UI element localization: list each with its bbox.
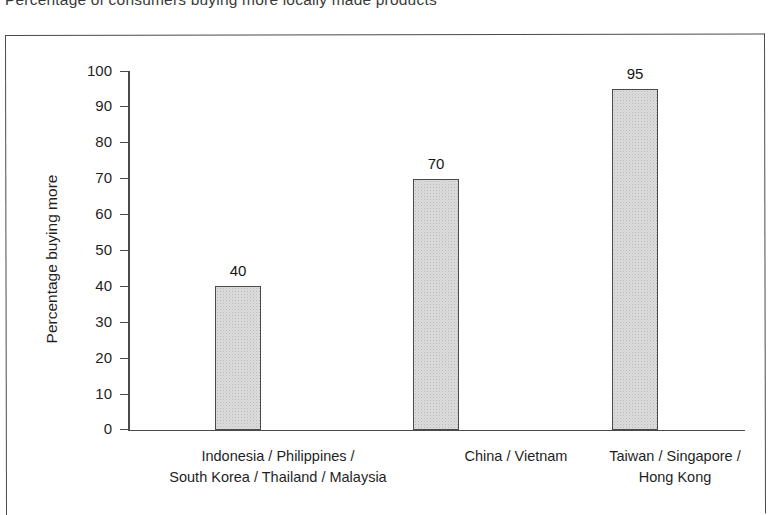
y-tick-40	[120, 286, 129, 287]
y-tick-label-30: 30	[72, 314, 112, 329]
y-axis-title: Percentage buying more	[43, 149, 61, 369]
y-tick-100	[120, 71, 129, 72]
y-tick-label-100: 100	[72, 63, 112, 78]
y-tick-label-50: 50	[72, 242, 112, 257]
y-tick-80	[120, 142, 129, 143]
bar-indonesia-philippines-south-korea-thailand-malaysia[interactable]	[215, 286, 261, 430]
category-label-1-line-2: South Korea / Thailand / Malaysia	[118, 467, 438, 488]
bar-value-label-3: 95	[595, 66, 675, 81]
y-tick-label-60: 60	[72, 206, 112, 221]
y-tick-60	[120, 214, 129, 215]
bar-value-label-1: 40	[198, 263, 278, 278]
y-tick-label-0: 0	[72, 421, 112, 436]
y-tick-label-70: 70	[72, 170, 112, 185]
category-label-3-line-2: Hong Kong	[515, 467, 772, 488]
y-tick-label-40: 40	[72, 278, 112, 293]
y-tick-50	[120, 250, 129, 251]
y-tick-0	[120, 429, 129, 430]
bar-taiwan-singapore-hong-kong[interactable]	[612, 89, 658, 430]
bar-value-label-2: 70	[396, 156, 476, 171]
y-tick-label-90: 90	[72, 98, 112, 113]
y-tick-30	[120, 322, 129, 323]
category-label-3: Taiwan / Singapore / Hong Kong	[515, 446, 772, 488]
y-tick-label-10: 10	[72, 386, 112, 401]
y-tick-20	[120, 358, 129, 359]
y-tick-10	[120, 394, 129, 395]
y-tick-label-80: 80	[72, 134, 112, 149]
y-tick-70	[120, 178, 129, 179]
category-label-3-line-1: Taiwan / Singapore /	[515, 446, 772, 467]
y-tick-90	[120, 106, 129, 107]
y-tick-label-20: 20	[72, 350, 112, 365]
bar-china-vietnam[interactable]	[413, 179, 459, 430]
